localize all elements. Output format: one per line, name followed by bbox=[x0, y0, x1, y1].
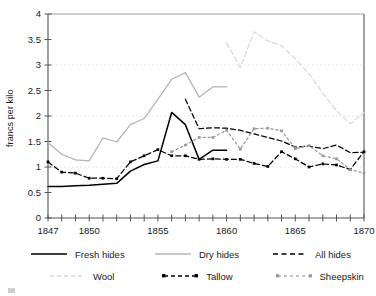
data-point bbox=[60, 171, 63, 174]
data-point bbox=[321, 154, 324, 157]
data-point bbox=[321, 163, 324, 166]
legend-swatch-dry-hides bbox=[154, 247, 192, 261]
data-point bbox=[225, 158, 228, 161]
y-tick-label-1: 0.5 bbox=[28, 187, 41, 198]
data-point bbox=[102, 177, 105, 180]
data-point bbox=[280, 150, 283, 153]
data-point bbox=[88, 177, 91, 180]
x-tick-label-1: 1850 bbox=[79, 225, 100, 236]
legend-label-tallow: Tallow bbox=[206, 271, 232, 282]
data-point bbox=[266, 165, 269, 168]
data-point bbox=[157, 148, 160, 151]
data-point bbox=[253, 162, 256, 165]
data-point bbox=[198, 158, 201, 161]
data-point bbox=[280, 129, 283, 132]
data-point bbox=[212, 157, 215, 160]
data-point bbox=[239, 148, 242, 151]
legend-row-1: Fresh hides Dry hides All hides bbox=[30, 243, 370, 265]
y-axis-label: francs per kilo bbox=[2, 58, 18, 178]
series-line-2 bbox=[185, 99, 364, 153]
legend-row-2: Wool Tallow Sheepskin bbox=[30, 265, 370, 287]
data-point bbox=[225, 129, 228, 132]
x-tick-label-2: 1855 bbox=[147, 225, 168, 236]
data-point bbox=[335, 164, 338, 167]
line-chart: 00.511.522.533.5418471850185518601865187… bbox=[0, 0, 376, 240]
x-tick-label-0: 1847 bbox=[37, 225, 58, 236]
y-tick-label-0: 0 bbox=[36, 212, 41, 223]
data-point bbox=[184, 154, 187, 157]
data-point bbox=[198, 136, 201, 139]
legend-label-fresh-hides: Fresh hides bbox=[75, 249, 125, 260]
y-tick-label-7: 3.5 bbox=[28, 34, 41, 45]
legend-item-tallow[interactable]: Tallow bbox=[149, 265, 260, 287]
data-point bbox=[115, 177, 118, 180]
data-point bbox=[363, 172, 366, 175]
y-tick-label-4: 2 bbox=[36, 110, 41, 121]
legend-label-all-hides: All hides bbox=[315, 249, 351, 260]
page-corner-artifact bbox=[8, 288, 15, 293]
data-point bbox=[212, 136, 215, 139]
data-point bbox=[47, 161, 50, 164]
plot-area-wrapper: 00.511.522.533.5418471850185518601865187… bbox=[0, 0, 376, 240]
series-line-0 bbox=[48, 112, 227, 186]
chart-legend: Fresh hides Dry hides All hides Wool bbox=[30, 243, 370, 291]
legend-item-wool[interactable]: Wool bbox=[30, 265, 149, 287]
legend-swatch-tallow bbox=[161, 269, 199, 283]
data-point bbox=[308, 166, 311, 169]
data-point bbox=[266, 127, 269, 130]
y-tick-label-2: 1 bbox=[36, 161, 41, 172]
series-fresh-hides bbox=[48, 112, 227, 186]
chart-figure: 00.511.522.533.5418471850185518601865187… bbox=[0, 0, 376, 296]
data-point bbox=[308, 144, 311, 147]
data-point bbox=[349, 168, 352, 171]
series-line-3 bbox=[227, 32, 364, 124]
series-all-hides bbox=[185, 99, 364, 153]
data-point bbox=[170, 150, 173, 153]
legend-swatch-all-hides bbox=[270, 247, 308, 261]
data-point bbox=[335, 157, 338, 160]
y-tick-label-5: 2.5 bbox=[28, 85, 41, 96]
y-tick-label-3: 1.5 bbox=[28, 136, 41, 147]
data-point bbox=[294, 157, 297, 160]
legend-swatch-wool bbox=[48, 269, 86, 283]
data-point bbox=[74, 172, 77, 175]
data-point bbox=[184, 144, 187, 147]
data-point bbox=[143, 154, 146, 157]
x-tick-label-5: 1870 bbox=[353, 225, 374, 236]
legend-swatch-fresh-hides bbox=[30, 247, 68, 261]
legend-item-all-hides[interactable]: All hides bbox=[270, 243, 370, 265]
y-tick-label-6: 3 bbox=[36, 59, 41, 70]
legend-item-sheepskin[interactable]: Sheepskin bbox=[261, 265, 370, 287]
data-point bbox=[294, 147, 297, 150]
x-tick-label-4: 1865 bbox=[285, 225, 306, 236]
legend-swatch-sheepskin bbox=[275, 269, 313, 283]
legend-label-sheepskin: Sheepskin bbox=[320, 271, 364, 282]
data-point bbox=[239, 158, 242, 161]
legend-item-dry-hides[interactable]: Dry hides bbox=[154, 243, 270, 265]
data-point bbox=[170, 154, 173, 157]
series-wool bbox=[227, 32, 364, 124]
x-tick-label-3: 1860 bbox=[216, 225, 237, 236]
legend-item-fresh-hides[interactable]: Fresh hides bbox=[30, 243, 154, 265]
legend-label-dry-hides: Dry hides bbox=[199, 249, 239, 260]
data-point bbox=[129, 161, 132, 164]
y-tick-label-8: 4 bbox=[36, 8, 41, 19]
legend-label-wool: Wool bbox=[93, 271, 114, 282]
series-line-1 bbox=[48, 73, 227, 161]
data-point bbox=[253, 127, 256, 130]
data-point bbox=[363, 150, 366, 153]
series-dry-hides bbox=[48, 73, 227, 161]
